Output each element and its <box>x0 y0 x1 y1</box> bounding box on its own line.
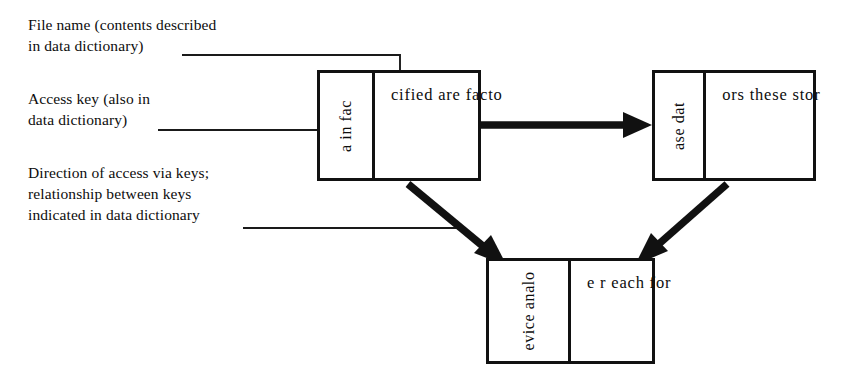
data-store-key-column-2: ase dat <box>655 73 706 178</box>
data-store-name-label-2: ors these stor <box>722 85 820 105</box>
data-store-key-column-1: a in fac <box>320 73 375 178</box>
data-store-body-1: cified are facto <box>375 73 478 178</box>
data-store-key-label-3: evice analo <box>520 272 538 351</box>
data-store-box-1: a in fac cified are facto <box>317 70 481 181</box>
access-arrow-store1-to-store2 <box>481 112 652 138</box>
data-store-body-3: e r each for <box>571 261 652 361</box>
data-store-name-label-1: cified are facto <box>391 85 503 105</box>
data-store-box-3: evice analo e r each for <box>486 258 655 364</box>
diagram-canvas: File name (contents described in data di… <box>0 0 847 383</box>
data-store-body-2: ors these stor <box>706 73 813 178</box>
data-store-key-column-3: evice analo <box>489 261 571 361</box>
annotation-file-name: File name (contents described in data di… <box>28 14 216 56</box>
access-arrow-store1-to-store3 <box>408 184 507 266</box>
data-store-key-label-2: ase dat <box>670 101 688 149</box>
annotation-direction-of-access: Direction of access via keys; relationsh… <box>28 162 209 225</box>
data-store-name-label-3: e r each for <box>587 273 671 293</box>
data-store-key-label-1: a in fac <box>337 100 355 152</box>
access-arrow-store2-to-store3 <box>635 184 727 265</box>
data-store-box-2: ase dat ors these stor <box>652 70 816 181</box>
annotation-access-key: Access key (also in data dictionary) <box>28 88 150 130</box>
